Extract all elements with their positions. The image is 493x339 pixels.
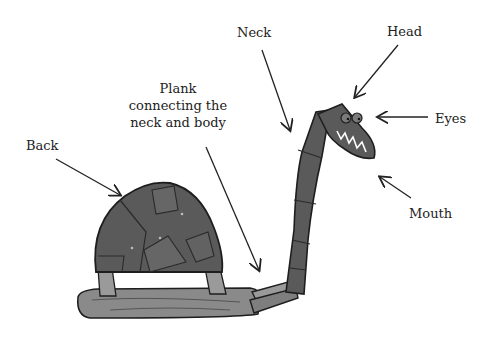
label-head: Head [387, 23, 422, 40]
label-neck: Neck [237, 24, 271, 41]
neck-arrow-icon [262, 50, 290, 130]
back-arrow-icon [56, 159, 120, 195]
shell-back [95, 183, 222, 272]
head [318, 104, 375, 158]
label-mouth: Mouth [409, 205, 452, 222]
label-plank-line2: connecting the [118, 97, 238, 114]
label-eyes: Eyes [435, 110, 466, 127]
neck [286, 110, 330, 294]
head-arrow-icon [355, 45, 398, 97]
turtle-illustration [0, 0, 493, 339]
label-plank-line1: Plank [118, 80, 238, 97]
eye-left-icon [341, 113, 351, 123]
mouth-arrow-icon [380, 177, 411, 198]
label-back: Back [26, 137, 58, 154]
label-plank-line3: neck and body [118, 114, 238, 131]
label-plank: Plank connecting the neck and body [118, 80, 238, 131]
turtle-sculpture-diagram: Neck Head Eyes Mouth Back Plank connecti… [0, 0, 493, 339]
eye-right-icon [352, 113, 362, 123]
